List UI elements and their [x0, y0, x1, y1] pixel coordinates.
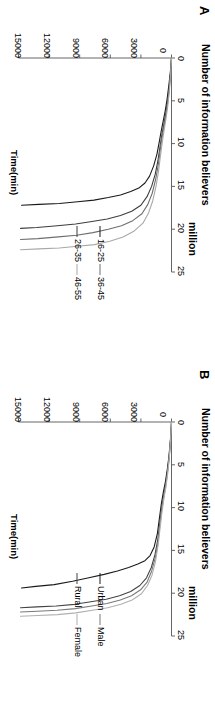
panel-b-axis-title-line2: million: [186, 586, 198, 620]
panel-b-ytick-0: 0: [157, 412, 167, 417]
panel-b-ytick-2: 6000: [99, 402, 109, 422]
panel-b-xtick-2: 10: [175, 501, 185, 511]
legend-line-icon: [100, 264, 101, 275]
panel-b-letter: B: [196, 370, 211, 379]
panel-b-legend-label-3: Female: [72, 627, 82, 657]
panel-b-axis-title-line1: Number of information believers: [199, 408, 211, 570]
panel-a-axis-title-line1: Number of information believers: [199, 44, 211, 206]
panel-a-ytick-0: 0: [157, 48, 167, 53]
panel-a-legend-item-3[interactable]: 46-55: [72, 264, 82, 300]
panel-b-legend-item-1[interactable]: Rural: [72, 573, 82, 608]
panel-b-xtick-5: 25: [175, 630, 185, 640]
panel-a-legend-label-1: 26-35: [72, 239, 82, 262]
panel-b-ytick-4: 12000: [41, 397, 51, 422]
panel-a-xtick-0: 0: [175, 56, 185, 61]
legend-line-icon: [77, 264, 78, 275]
panel-a-legend-label-0: 16-25: [95, 239, 105, 262]
panel-b-ytick-1: 3000: [128, 402, 138, 422]
panel-b-legend-label-2: Male: [95, 627, 105, 647]
panel-a-ytick-2: 6000: [99, 38, 109, 58]
panel-a-ytick-1: 3000: [128, 38, 138, 58]
panel-b-legend-item-2[interactable]: Male: [95, 614, 105, 647]
panel-b: B Number of information believers millio…: [0, 364, 215, 728]
panel-b-ytick-5: 15000: [12, 397, 22, 422]
panel-a-letter: A: [196, 6, 211, 15]
panel-a-legend-label-3: 46-55: [72, 277, 82, 300]
panel-a: A Number of information believers millio…: [0, 0, 215, 364]
panel-a-axis-title-line2: million: [186, 222, 198, 256]
figure-container: A Number of information believers millio…: [0, 0, 215, 728]
panel-b-ytick-3: 9000: [70, 402, 80, 422]
panel-a-legend-item-2[interactable]: 36-45: [95, 264, 105, 300]
panel-b-legend-item-3[interactable]: Female: [72, 614, 82, 657]
panel-a-ytick-5: 15000: [12, 33, 22, 58]
panel-a-xtick-1: 5: [175, 98, 185, 103]
panel-b-xtick-0: 0: [175, 420, 185, 425]
panel-a-ytick-4: 12000: [41, 33, 51, 58]
panel-a-xtick-4: 20: [175, 223, 185, 233]
legend-line-icon: [77, 614, 78, 625]
panel-a-rotated-canvas: A Number of information believers millio…: [0, 0, 215, 364]
legend-line-icon: [100, 573, 101, 584]
panel-a-xtick-3: 15: [175, 180, 185, 190]
legend-line-icon: [77, 226, 78, 237]
panel-b-xtick-1: 5: [175, 462, 185, 467]
legend-line-icon: [77, 573, 78, 584]
panel-a-ytick-3: 9000: [70, 38, 80, 58]
panel-b-xtick-4: 20: [175, 587, 185, 597]
panel-a-legend-label-2: 36-45: [95, 277, 105, 300]
legend-line-icon: [100, 614, 101, 625]
panel-b-y-axis-label: Time(min): [8, 514, 19, 559]
panel-a-y-axis-label: Time(min): [8, 150, 19, 195]
legend-line-icon: [100, 226, 101, 237]
panel-a-legend-item-1[interactable]: 26-35: [72, 226, 82, 262]
panel-b-xtick-3: 15: [175, 544, 185, 554]
panel-b-legend-label-0: Urban: [95, 586, 105, 611]
panel-a-xtick-5: 25: [175, 266, 185, 276]
panel-b-rotated-canvas: B Number of information believers millio…: [0, 364, 215, 728]
panel-b-legend-item-0[interactable]: Urban: [95, 573, 105, 611]
panel-a-xtick-2: 10: [175, 137, 185, 147]
panel-b-legend-label-1: Rural: [72, 586, 82, 608]
panel-a-legend-item-0[interactable]: 16-25: [95, 226, 105, 262]
